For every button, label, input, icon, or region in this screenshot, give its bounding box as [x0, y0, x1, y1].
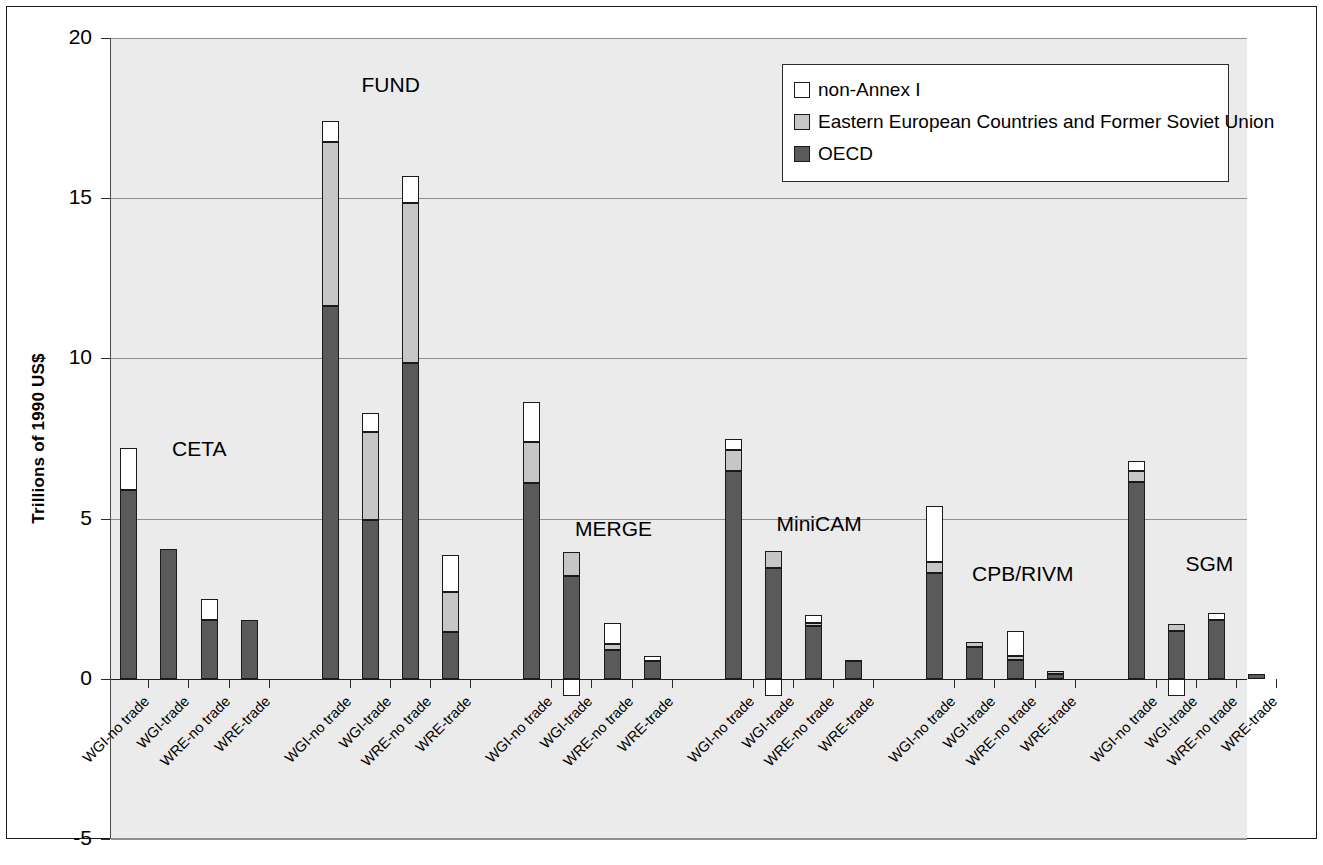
- x-axis-tick-mark: [1075, 679, 1076, 688]
- legend-item: OECD: [794, 138, 1217, 170]
- x-axis-tick-mark: [833, 679, 834, 688]
- bar-segment-nonannex: [1128, 461, 1145, 471]
- x-axis-tick-mark: [390, 679, 391, 688]
- bar-segment-nonannex: [563, 679, 580, 697]
- group-label-sgm: SGM: [1186, 552, 1234, 576]
- x-axis-tick-mark: [632, 679, 633, 688]
- group-label-merge: MERGE: [575, 517, 652, 541]
- x-axis-tick-mark: [753, 679, 754, 688]
- x-axis-tick-mark: [269, 679, 270, 688]
- bar-segment-oecd: [644, 661, 661, 679]
- bar-segment-eecfsu: [604, 644, 621, 650]
- bar-segment-nonannex: [322, 121, 339, 142]
- bar-segment-oecd: [1208, 620, 1225, 679]
- bar-segment-oecd: [765, 568, 782, 679]
- bar-segment-oecd: [805, 626, 822, 679]
- bar-segment-oecd: [845, 661, 862, 679]
- group-label-ceta: CETA: [172, 437, 226, 461]
- bar-segment-oecd: [926, 573, 943, 679]
- bar-segment-eecfsu: [765, 551, 782, 569]
- bar-segment-oecd: [725, 471, 742, 679]
- x-axis-tick-mark: [873, 679, 874, 688]
- y-axis-tick-label: 20: [50, 25, 92, 49]
- bar-segment-oecd: [160, 549, 177, 679]
- x-axis-tick-mark: [430, 679, 431, 688]
- bar-segment-nonannex: [120, 448, 137, 490]
- bar-segment-nonannex: [201, 599, 218, 620]
- bar-segment-oecd: [523, 483, 540, 678]
- bar-segment-oecd: [1047, 674, 1064, 679]
- bar-segment-nonannex: [523, 402, 540, 442]
- bar-segment-nonannex: [1208, 613, 1225, 619]
- bar-segment-eecfsu: [563, 552, 580, 576]
- gridline: [111, 358, 1247, 359]
- bar-segment-nonannex: [765, 679, 782, 697]
- x-axis-tick-mark: [148, 679, 149, 688]
- bar-segment-oecd: [201, 620, 218, 679]
- gridline: [111, 839, 1247, 840]
- y-axis-tick-mark: [101, 358, 110, 359]
- y-axis-tick-mark: [101, 38, 110, 39]
- group-label-fund: FUND: [362, 73, 420, 97]
- gridline: [111, 198, 1247, 199]
- x-axis-tick-mark: [591, 679, 592, 688]
- group-label-minicam: MiniCAM: [777, 512, 862, 536]
- legend-swatch-oecd-icon: [794, 146, 810, 162]
- x-axis-tick-mark: [793, 679, 794, 688]
- y-axis-tick-label: 0: [50, 666, 92, 690]
- figure-page: Trillions of 1990 US$ -505101520 WGI-no …: [0, 0, 1323, 865]
- x-axis-tick-mark: [188, 679, 189, 688]
- bar-segment-eecfsu: [442, 592, 459, 632]
- bar-segment-nonannex: [442, 555, 459, 592]
- bar-segment-nonannex: [1168, 679, 1185, 697]
- x-axis-tick-mark: [1035, 679, 1036, 688]
- legend-swatch-non-annex-i-icon: [794, 82, 810, 98]
- bar-segment-eecfsu: [1128, 471, 1145, 482]
- legend-swatch-eecfsu-icon: [794, 114, 810, 130]
- y-axis-tick-label: 15: [50, 185, 92, 209]
- bar-segment-eecfsu: [523, 442, 540, 484]
- bar-segment-eecfsu: [805, 623, 822, 626]
- bar-segment-eecfsu: [1168, 624, 1185, 630]
- bar-segment-nonannex: [926, 506, 943, 562]
- bar-segment-oecd: [563, 576, 580, 679]
- bar-segment-oecd: [322, 306, 339, 679]
- gridline: [111, 38, 1247, 39]
- legend: non-Annex I Eastern European Countries a…: [782, 64, 1229, 182]
- x-axis-tick-mark: [1196, 679, 1197, 688]
- plot-bottom-border: [111, 838, 1247, 839]
- x-axis-tick-mark: [1236, 679, 1237, 688]
- bar-segment-eecfsu: [322, 142, 339, 305]
- bar-segment-eecfsu: [725, 450, 742, 471]
- y-axis-tick-mark: [101, 839, 110, 840]
- gridline: [111, 519, 1247, 520]
- bar-segment-oecd: [362, 520, 379, 679]
- bar-segment-eecfsu: [1047, 671, 1064, 674]
- figure-frame: Trillions of 1990 US$ -505101520 WGI-no …: [6, 6, 1317, 839]
- legend-item: non-Annex I: [794, 74, 1217, 106]
- legend-label: non-Annex I: [818, 79, 920, 101]
- bar-segment-oecd: [120, 490, 137, 679]
- x-axis-tick-mark: [994, 679, 995, 688]
- x-axis-tick-mark: [229, 679, 230, 688]
- bar-segment-oecd: [1248, 674, 1265, 679]
- bar-segment-eecfsu: [926, 562, 943, 573]
- bar-segment-eecfsu: [1007, 656, 1024, 659]
- y-axis-title: Trillions of 1990 US$: [29, 38, 49, 839]
- bar-segment-nonannex: [1007, 631, 1024, 657]
- legend-label: Eastern European Countries and Former So…: [818, 111, 1274, 133]
- y-axis-tick-mark: [101, 679, 110, 680]
- bar-segment-nonannex: [805, 615, 822, 623]
- y-axis-tick-mark: [101, 198, 110, 199]
- group-label-cpb-rivm: CPB/RIVM: [972, 562, 1074, 586]
- bar-segment-oecd: [1007, 660, 1024, 679]
- zero-axis-line: [111, 679, 1247, 680]
- bar-segment-eecfsu: [402, 203, 419, 363]
- bar-segment-oecd: [604, 650, 621, 679]
- bar-segment-nonannex: [644, 656, 661, 661]
- x-axis-tick-mark: [470, 679, 471, 688]
- bar-segment-oecd: [1128, 482, 1145, 679]
- bar-segment-eecfsu: [362, 432, 379, 520]
- y-axis-tick-label: 5: [50, 506, 92, 530]
- x-axis-tick-mark: [1156, 679, 1157, 688]
